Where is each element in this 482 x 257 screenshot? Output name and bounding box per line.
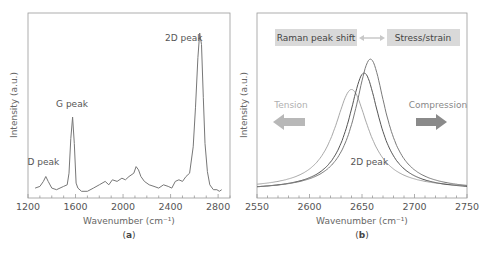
x-tick-label: 2400 bbox=[158, 201, 182, 212]
x-tick-label: 1600 bbox=[63, 201, 87, 212]
panel-b-x-ticks bbox=[257, 194, 467, 198]
x-tick-label: 2550 bbox=[245, 201, 269, 212]
panel-b: 25502600265027002750 Raman peak shift St… bbox=[239, 13, 479, 240]
panel-b-annotations: 2D peak bbox=[351, 157, 389, 167]
x-tick-label: 1200 bbox=[16, 201, 40, 212]
panel-a-y-axis-label: Intensity (a.u.) bbox=[9, 72, 19, 138]
raman-figure: 12001600200024002800 D peakG peak2D peak… bbox=[0, 0, 482, 257]
tension-arrow-icon bbox=[273, 114, 305, 130]
x-tick-label: 2750 bbox=[455, 201, 479, 212]
compression-label: Compression bbox=[409, 100, 467, 110]
compression-arrow-icon bbox=[416, 114, 447, 130]
double-arrow-icon bbox=[359, 35, 385, 41]
peak-annotation: 2D peak bbox=[165, 33, 203, 43]
panel-a-x-tick-labels: 12001600200024002800 bbox=[16, 201, 230, 212]
panel-b-x-tick-labels: 25502600265027002750 bbox=[245, 201, 479, 212]
panel-a-spectrum-line bbox=[35, 33, 222, 191]
panel-a-annotations: D peakG peak2D peak bbox=[28, 33, 204, 167]
x-tick-label: 2600 bbox=[297, 201, 321, 212]
panel-a: 12001600200024002800 D peakG peak2D peak… bbox=[9, 13, 230, 240]
tension-label: Tension bbox=[273, 100, 308, 110]
peak-annotation: D peak bbox=[28, 157, 61, 167]
panel-a-label: (a) bbox=[122, 230, 135, 240]
raman-peak-shift-label: Raman peak shift bbox=[277, 33, 356, 43]
peak-annotation: G peak bbox=[56, 99, 89, 109]
panel-a-x-axis-label: Wavenumber (cm⁻¹) bbox=[83, 216, 175, 226]
curve-unstrained bbox=[257, 73, 467, 187]
panel-b-y-axis-label: Intensity (a.u.) bbox=[239, 72, 249, 138]
panel-b-x-axis-label: Wavenumber (cm⁻¹) bbox=[316, 216, 408, 226]
x-tick-label: 2800 bbox=[206, 201, 230, 212]
panel-b-label: (b) bbox=[355, 230, 368, 240]
x-tick-label: 2650 bbox=[350, 201, 374, 212]
x-tick-label: 2000 bbox=[111, 201, 135, 212]
peak-annotation: 2D peak bbox=[351, 157, 389, 167]
x-tick-label: 2700 bbox=[402, 201, 426, 212]
panel-a-x-ticks bbox=[28, 194, 230, 198]
stress-strain-label: Stress/strain bbox=[395, 33, 451, 43]
